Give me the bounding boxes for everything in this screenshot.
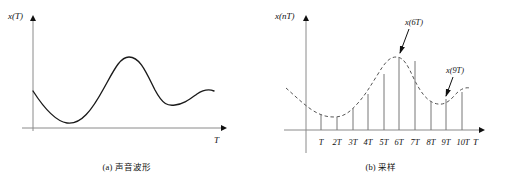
panel-b-stems	[321, 57, 462, 130]
panel-a-x-axis-label: T	[214, 135, 220, 145]
annotation-label-x6T: x(6T)	[404, 18, 423, 27]
panel-a-svg: x(T) T	[0, 0, 254, 162]
tick-label-8: 8T	[427, 138, 437, 147]
figure-panel-b: T 2T 3T 4T 5T 6T 7T 8T 9T 10T x(6T) x(9T…	[254, 0, 508, 188]
annotation-label-x9T: x(9T)	[445, 66, 464, 75]
tick-label-3: 3T	[348, 138, 359, 147]
panel-b-caption: (b) 采样	[254, 160, 508, 172]
tick-label-1: T	[319, 138, 325, 147]
panel-a-y-axis-label: x(T)	[7, 11, 23, 21]
tick-label-6: 6T	[395, 138, 405, 147]
panel-b-tick-labels: T 2T 3T 4T 5T 6T 7T 8T 9T 10T	[319, 138, 471, 147]
annotation-leader-x9T	[446, 77, 453, 96]
panel-a-caption: (a) 声音波形	[0, 160, 254, 172]
tick-label-9: 9T	[442, 138, 452, 147]
figure-panel-a: x(T) T (a) 声音波形	[0, 0, 254, 188]
tick-label-5: 5T	[380, 138, 390, 147]
tick-label-2: 2T	[333, 138, 343, 147]
panel-b-envelope-curve	[286, 57, 470, 117]
annotation-leader-x6T	[400, 29, 409, 53]
panel-b-y-axis-label: x(nT)	[274, 11, 295, 21]
tick-label-10: 10T	[456, 138, 470, 147]
panel-b-x-axis-label: T	[473, 137, 479, 147]
panel-a-plot-area: x(T) T	[0, 0, 254, 162]
panel-b-plot-area: T 2T 3T 4T 5T 6T 7T 8T 9T 10T x(6T) x(9T…	[254, 0, 508, 162]
panel-a-waveform-curve	[33, 57, 214, 123]
panel-b-svg: T 2T 3T 4T 5T 6T 7T 8T 9T 10T x(6T) x(9T…	[254, 0, 508, 162]
tick-label-7: 7T	[411, 138, 421, 147]
tick-label-4: 4T	[364, 138, 374, 147]
